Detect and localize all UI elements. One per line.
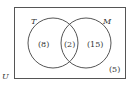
t-only-count: (8) xyxy=(38,40,49,49)
intersection-count: (2) xyxy=(64,40,75,49)
universe-label: U xyxy=(2,72,9,81)
outside-count: (5) xyxy=(109,65,120,74)
set-m-label: M xyxy=(102,17,112,26)
m-only-count: (15) xyxy=(87,40,103,49)
set-t-label: T xyxy=(31,17,37,26)
venn-diagram: T M U (8) (2) (15) (5) xyxy=(0,0,131,86)
